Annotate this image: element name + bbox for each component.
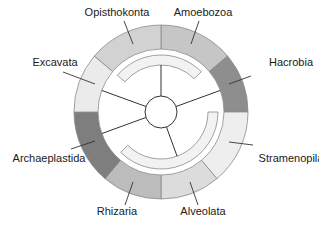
spoke-line bbox=[102, 90, 146, 106]
label-hacrobia: Hacrobia bbox=[269, 56, 314, 68]
spoke-line bbox=[176, 90, 220, 106]
label-excavata: Excavata bbox=[32, 56, 78, 68]
unikonts-arc bbox=[117, 55, 201, 82]
label-archaeplastida: Archaeplastida bbox=[13, 152, 87, 164]
label-opisthokonta: Opisthokonta bbox=[85, 6, 151, 18]
label-alveolata: Alveolata bbox=[180, 205, 226, 217]
spoke-line bbox=[102, 117, 146, 133]
spoke-line bbox=[166, 127, 177, 156]
eukaryote-ring-diagram: AmoebozoaHacrobiaStramenopilaAlveolataRh… bbox=[0, 0, 319, 228]
label-amoebozoa: Amoebozoa bbox=[174, 6, 234, 18]
label-rhizaria: Rhizaria bbox=[97, 205, 138, 217]
center-circle bbox=[145, 96, 177, 128]
label-stramenopila: Stramenopila bbox=[259, 152, 319, 164]
